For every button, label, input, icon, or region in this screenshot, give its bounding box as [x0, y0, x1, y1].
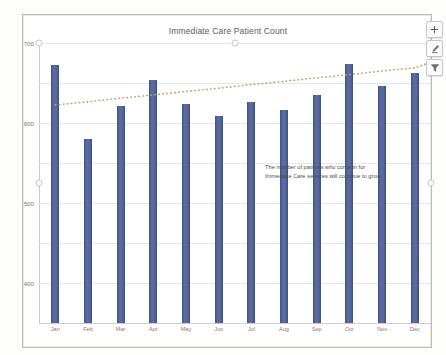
bar-jan[interactable] [51, 65, 59, 323]
bar-series-group[interactable] [39, 43, 431, 323]
scanned-page: Immediate Care Patient Count 01002003004… [0, 0, 446, 355]
category-label-jun: Jun [214, 326, 223, 332]
value-axis-tick-label: 600 [24, 120, 34, 127]
plus-icon [430, 25, 439, 34]
selection-handle-mid-right[interactable] [428, 180, 435, 187]
category-label-sep: Sep [312, 326, 322, 332]
selection-handle-top-left[interactable] [36, 40, 43, 47]
gridline: 0 [39, 323, 431, 324]
bar-feb[interactable] [84, 139, 92, 323]
chart-side-buttons[interactable] [426, 21, 443, 76]
paintbrush-icon [430, 44, 440, 54]
value-axis-tick-label: 700 [24, 40, 34, 47]
bar-apr[interactable] [149, 80, 157, 323]
selection-handle-mid-left[interactable] [36, 180, 43, 187]
selection-handle-top-mid[interactable] [232, 40, 239, 47]
category-label-jan: Jan [51, 326, 60, 332]
category-label-aug: Aug [279, 326, 289, 332]
bar-aug[interactable] [280, 110, 288, 323]
bar-dec[interactable] [411, 73, 419, 323]
funnel-icon [430, 63, 440, 73]
category-label-nov: Nov [377, 326, 387, 332]
chart-filters-button[interactable] [426, 59, 443, 76]
category-label-oct: Oct [345, 326, 354, 332]
category-label-mar: Mar [116, 326, 126, 332]
value-axis-tick-label: 500 [24, 200, 34, 207]
bar-jun[interactable] [215, 116, 223, 323]
chart-styles-button[interactable] [426, 40, 443, 57]
chart-object-frame[interactable]: Immediate Care Patient Count 01002003004… [22, 14, 432, 348]
chart-title[interactable]: Immediate Care Patient Count [23, 26, 433, 36]
value-axis-tick-label: 400 [24, 280, 34, 287]
bar-nov[interactable] [378, 86, 386, 323]
chart-elements-button[interactable] [426, 21, 443, 38]
chart-text-annotation[interactable]: The number of patients who come in for I… [265, 163, 385, 182]
category-label-feb: Feb [83, 326, 93, 332]
bar-jul[interactable] [247, 102, 255, 323]
category-label-jul: Jul [248, 326, 255, 332]
bar-oct[interactable] [345, 64, 353, 323]
category-label-apr: Apr [149, 326, 158, 332]
category-label-dec: Dec [410, 326, 420, 332]
bar-may[interactable] [182, 104, 190, 323]
category-label-may: May [181, 326, 192, 332]
bar-mar[interactable] [117, 106, 125, 323]
plot-area[interactable]: 0100200300400500600700 JanFebMarAprMayJu… [39, 43, 431, 323]
bar-sep[interactable] [313, 95, 321, 323]
